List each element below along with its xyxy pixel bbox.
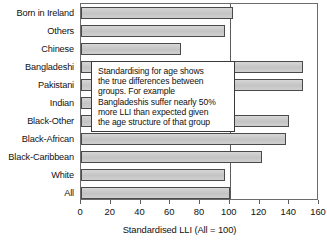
annotation-line-1: Standardising for age shows [98, 66, 229, 76]
y-axis-label-chinese: Chinese [0, 44, 74, 54]
x-axis-tick-label-80: 80 [194, 206, 204, 218]
annotation-line-3: groups. For example [98, 86, 229, 96]
y-axis-label-black-african: Black-African [0, 134, 74, 144]
x-axis-tick-40 [140, 200, 141, 204]
bar-born-in-ireland [81, 7, 233, 19]
y-axis-label-indian: Indian [0, 98, 74, 108]
x-axis-tick-label-0: 0 [77, 206, 82, 218]
x-axis-tick-label-60: 60 [164, 206, 174, 218]
y-axis-label-others: Others [0, 26, 74, 36]
annotation-line-4: Bangladeshis suffer nearly 50% [98, 97, 229, 107]
annotation-line-2: the true differences between [98, 76, 229, 86]
annotation-callout: Standardising for age shows the true dif… [91, 61, 235, 132]
bar-chinese [81, 43, 181, 55]
x-axis-tick-label-100: 100 [221, 206, 237, 218]
x-axis-tick-100 [229, 200, 230, 204]
y-axis-label-bangladeshi: Bangladeshi [0, 62, 74, 72]
x-axis-tick-140 [288, 200, 289, 204]
bar-black-african [81, 133, 286, 145]
x-axis-tick-20 [110, 200, 111, 204]
y-axis-label-all: All [0, 188, 74, 198]
y-axis-label-born-in-ireland: Born in Ireland [0, 8, 74, 18]
x-axis-tick-60 [169, 200, 170, 204]
y-axis-label-pakistani: Pakistani [0, 80, 74, 90]
x-axis-title: Standardised LLI (All = 100) [0, 224, 327, 236]
y-axis-label-black-caribbean: Black-Caribbean [0, 152, 74, 162]
x-axis-tick-label-140: 140 [280, 206, 296, 218]
x-axis-tick-160 [318, 200, 319, 204]
standardised-lli-bar-chart: Born in Ireland Others Chinese Banglades… [0, 0, 327, 244]
annotation-line-5: more LLI than expected given [98, 107, 229, 117]
x-axis-tick-label-20: 20 [105, 206, 115, 218]
y-axis-label-white: White [0, 170, 74, 180]
x-axis-tick-labels: 020406080100120140160 [0, 206, 327, 220]
bar-others [81, 25, 225, 37]
x-axis-tick-0 [80, 200, 81, 204]
annotation-line-6: the age structure of that group [98, 117, 229, 127]
x-axis-tick-label-120: 120 [251, 206, 267, 218]
x-axis-tick-label-160: 160 [310, 206, 326, 218]
y-axis-category-labels: Born in Ireland Others Chinese Banglades… [0, 3, 77, 200]
bar-white [81, 169, 225, 181]
bar-all [81, 187, 230, 199]
y-axis-label-black-other: Black-Other [0, 116, 74, 126]
bar-black-caribbean [81, 151, 262, 163]
x-axis-tick-120 [259, 200, 260, 204]
x-axis-tick-label-40: 40 [134, 206, 144, 218]
x-axis-tick-80 [199, 200, 200, 204]
